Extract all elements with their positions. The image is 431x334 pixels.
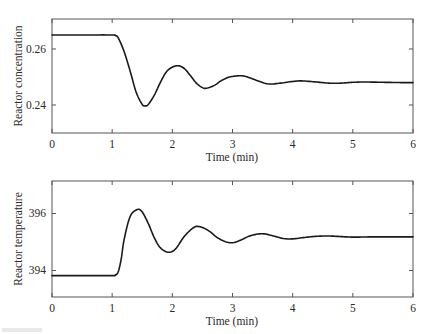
x-tick-label: 1 (109, 138, 115, 150)
y-tick-label: 0.24 (26, 99, 46, 111)
x-tick-label: 5 (350, 138, 356, 150)
y-axis-label: Reactor temperature (12, 192, 25, 286)
caption-remnant (2, 328, 42, 332)
x-tick-label: 2 (169, 138, 175, 150)
x-tick-label: 1 (109, 302, 115, 314)
y-ticks: 394396 (29, 207, 413, 276)
x-tick-label: 2 (169, 302, 175, 314)
x-ticks: 0123456 (49, 181, 416, 314)
x-axis-label: Time (min) (206, 151, 258, 164)
x-tick-label: 6 (410, 138, 416, 150)
y-ticks: 0.240.26 (26, 43, 413, 111)
x-tick-label: 3 (230, 138, 236, 150)
x-tick-label: 5 (350, 302, 356, 314)
x-tick-label: 3 (230, 302, 236, 314)
y-axis-label: Reactor concentration (12, 25, 24, 126)
figure: 0123456 0.240.26 Time (min) Reactor conc… (0, 0, 431, 334)
x-tick-label: 0 (49, 138, 55, 150)
x-ticks: 0123456 (49, 19, 416, 150)
x-axis-label: Time (min) (206, 315, 258, 328)
x-tick-label: 0 (49, 302, 55, 314)
concentration-plot: 0123456 0.240.26 Time (min) Reactor conc… (12, 19, 416, 164)
y-tick-label: 0.26 (26, 43, 46, 55)
x-tick-label: 4 (290, 302, 296, 314)
y-tick-label: 396 (29, 207, 47, 219)
temperature-plot: 0123456 394396 Time (min) Reactor temper… (12, 181, 416, 328)
y-tick-label: 394 (29, 264, 47, 276)
temperature-curve (52, 209, 413, 275)
x-tick-label: 6 (410, 302, 416, 314)
x-tick-label: 4 (290, 138, 296, 150)
concentration-curve (52, 35, 413, 106)
plot-frame (52, 181, 413, 297)
